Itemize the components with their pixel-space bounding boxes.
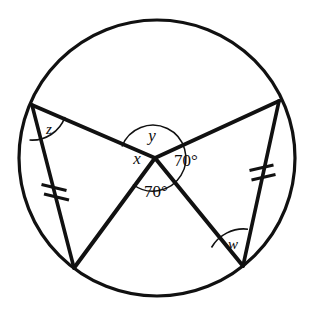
chord-right [243,101,279,266]
label-angle-z: z [45,121,52,137]
circle-geometry-figure: y x 70° 70° z w [0,0,310,313]
geometry-diagram-canvas: y x 70° 70° z w [0,0,310,313]
label-angle-y: y [146,126,156,145]
radius-to-bottom-left [74,158,155,268]
tick-right-chord-upper [250,165,274,171]
label-angle-70-bottom: 70° [144,182,168,201]
label-angle-x: x [132,149,141,168]
label-angle-w: w [228,236,238,252]
label-angle-70-right: 70° [174,151,198,170]
radius-to-top-right [155,101,279,158]
